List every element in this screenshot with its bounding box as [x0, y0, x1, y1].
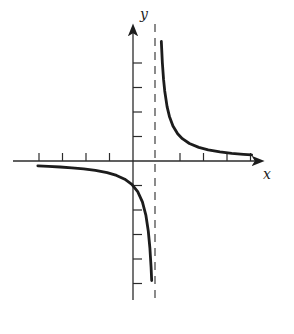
graph-canvas — [0, 0, 294, 334]
x-axis-tick-marks — [39, 153, 251, 161]
function-graph-figure: y x — [0, 0, 294, 334]
y-axis-label: y — [140, 7, 148, 21]
curve-left-branch — [38, 166, 152, 281]
x-axis-label: x — [263, 167, 271, 181]
y-axis-tick-marks — [133, 63, 142, 284]
curve-right-branch — [161, 41, 251, 155]
